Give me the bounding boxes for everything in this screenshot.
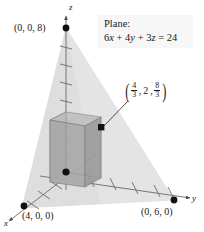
point-comma-2: , bbox=[150, 85, 153, 96]
point-comma-1: , bbox=[139, 85, 142, 96]
point-x-numerator: 4 bbox=[131, 82, 137, 90]
inscribed-box bbox=[50, 112, 101, 187]
point-close-paren: ) bbox=[162, 83, 166, 99]
plane-callout-title: Plane: bbox=[104, 18, 189, 30]
point-z-fraction: 8 3 bbox=[154, 82, 160, 99]
plane-equation-callout: Plane: 6x + 4y + 3z = 24 bbox=[98, 15, 193, 48]
z-intercept-dot bbox=[63, 25, 70, 32]
point-z-numerator: 8 bbox=[154, 82, 160, 90]
x-axis-label: x bbox=[4, 219, 8, 228]
y-axis-label: y bbox=[192, 194, 196, 203]
point-x-denominator: 3 bbox=[131, 90, 137, 99]
box-vertex-dot bbox=[98, 124, 104, 130]
eq-rhs: 24 bbox=[167, 32, 178, 43]
eq-equals: = bbox=[156, 32, 167, 43]
point-y-value: 2 bbox=[143, 85, 148, 96]
y-intercept-dot bbox=[171, 197, 178, 204]
point-z-denominator: 3 bbox=[154, 90, 160, 99]
eq-op2: + bbox=[135, 32, 146, 43]
y-intercept-label: (0, 6, 0) bbox=[141, 207, 173, 217]
box-vertex-coordinate-label: ( 4 3 , 2 , 8 3 ) bbox=[124, 82, 167, 99]
z-axis-label: z bbox=[69, 3, 73, 12]
plane-box-figure: Plane: 6x + 4y + 3z = 24 (0, 0, 8) (0, 6… bbox=[0, 0, 204, 232]
plane-callout-equation: 6x + 4y + 3z = 24 bbox=[104, 31, 189, 44]
x-intercept-label: (4, 0, 0) bbox=[22, 211, 54, 221]
z-intercept-label: (0, 0, 8) bbox=[14, 23, 46, 33]
eq-op1: + bbox=[114, 32, 125, 43]
point-x-fraction: 4 3 bbox=[131, 82, 137, 99]
x-intercept-dot bbox=[21, 203, 28, 210]
origin-dot bbox=[62, 168, 69, 175]
point-open-paren: ( bbox=[125, 83, 129, 99]
